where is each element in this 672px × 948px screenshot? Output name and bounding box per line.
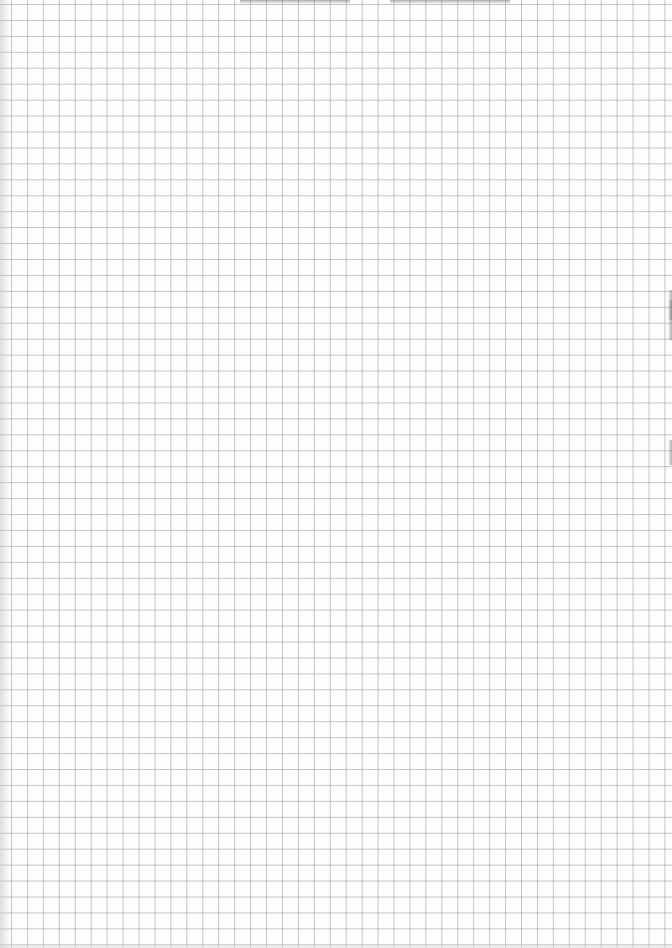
scan-edge-shading-bottom — [0, 943, 672, 948]
scan-edge-shading-left — [0, 0, 10, 948]
scan-shadow-top-1 — [240, 0, 350, 4]
scan-shadow-top-2 — [390, 0, 470, 4]
scan-shadow-top-3 — [470, 0, 510, 4]
grid-paper-sheet — [0, 0, 672, 948]
scan-shadow-right-3 — [668, 440, 672, 465]
scan-shadow-right-2 — [668, 300, 672, 340]
